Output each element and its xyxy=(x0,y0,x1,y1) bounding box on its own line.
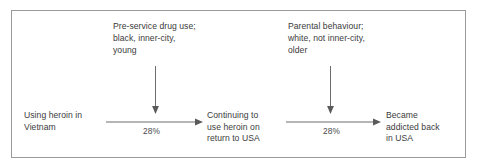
edge-label-start-to-middle: 28% xyxy=(143,126,160,136)
node-using-heroin-in-vietnam: Using heroin in Vietnam xyxy=(24,110,104,133)
node-continuing-to-use-heroin: Continuing to use heroin on return to US… xyxy=(207,110,289,145)
diagram-canvas: Pre-service drug use; black, inner-city,… xyxy=(0,0,479,168)
node-became-addicted-back-in-usa: Became addicted back in USA xyxy=(386,110,464,145)
annotation-left: Pre-service drug use; black, inner-city,… xyxy=(113,21,243,56)
edge-label-middle-to-end: 28% xyxy=(323,126,340,136)
annotation-right: Parental behaviour; white, not inner-cit… xyxy=(288,21,424,56)
